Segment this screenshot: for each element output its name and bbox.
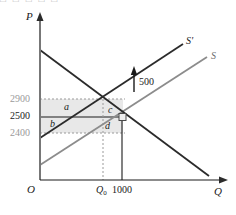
curve-label-s-prime: S' xyxy=(186,36,193,46)
x-tick-q0-subscript: 0 xyxy=(103,189,107,197)
x-tick-1000: 1000 xyxy=(112,185,132,195)
y-tick-2500: 2500 xyxy=(10,111,30,121)
region-label-a: a xyxy=(64,102,69,112)
region-label-d: d xyxy=(105,121,110,131)
x-axis-arrow-icon xyxy=(219,177,228,184)
shift-arrow-head-icon xyxy=(131,66,137,75)
region-label-b: b xyxy=(50,119,55,129)
y-axis-arrow-icon xyxy=(37,12,44,21)
x-axis-label: Q xyxy=(214,186,222,197)
region-label-c: c xyxy=(108,105,112,115)
x-tick-q0: Q0 xyxy=(96,185,107,197)
y-tick-2400: 2400 xyxy=(10,128,30,138)
diagram-canvas xyxy=(0,0,236,215)
curve-label-s: S xyxy=(211,51,216,61)
origin-label: O xyxy=(27,184,35,195)
supply-demand-figure: □ □ □ □ □ P Q O xyxy=(0,0,236,215)
y-axis-label: P xyxy=(26,11,33,22)
equilibrium-point-square xyxy=(119,114,126,121)
y-tick-2900: 2900 xyxy=(10,94,30,104)
shift-amount-label: 500 xyxy=(139,77,154,87)
